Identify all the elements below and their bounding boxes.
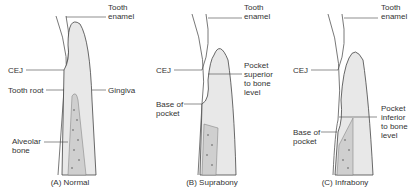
tooth-infrabony-illustration <box>277 0 415 191</box>
caption-normal: (A) Normal <box>20 178 120 187</box>
label-pocket-inferior: Pocket inferior to bone level <box>381 104 408 140</box>
label-cej: CEJ <box>293 66 308 75</box>
panel-suprabony: Tooth enamel CEJ Pocket superior to bone… <box>140 0 278 191</box>
label-tooth-root: Tooth root <box>8 86 44 95</box>
label-alveolar-bone: Alveolar bone <box>12 137 41 155</box>
caption-infrabony: (C) Infrabony <box>295 178 395 187</box>
label-pocket-superior: Pocket superior to bone level <box>244 61 273 97</box>
label-tooth-enamel: Tooth enamel <box>108 3 134 21</box>
caption-suprabony: (B) Suprabony <box>162 178 262 187</box>
panel-infrabony: Tooth enamel CEJ Pocket inferior to bone… <box>277 0 415 191</box>
label-tooth-enamel: Tooth enamel <box>244 3 270 21</box>
label-cej: CEJ <box>8 66 23 75</box>
tooth-normal-illustration <box>0 0 138 191</box>
panel-normal: Tooth enamel CEJ Tooth root Gingiva Alve… <box>0 0 138 191</box>
label-cej: CEJ <box>156 66 171 75</box>
label-gingiva: Gingiva <box>108 86 135 95</box>
label-tooth-enamel: Tooth enamel <box>381 3 407 21</box>
label-base-of-pocket: Base of pocket <box>156 100 183 118</box>
label-base-of-pocket: Base of pocket <box>293 128 320 146</box>
